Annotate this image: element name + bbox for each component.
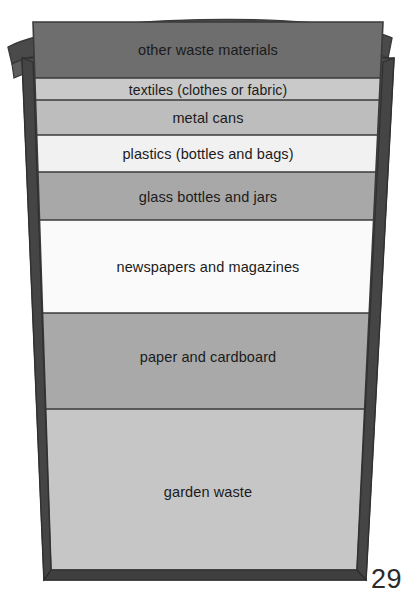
page-number: 29 (371, 564, 402, 595)
bin-base (44, 570, 366, 580)
page: other waste materials textiles (clothes … (0, 0, 416, 609)
band-metal-cans (0, 100, 416, 135)
band-textiles (0, 78, 416, 100)
band-other-waste-materials (0, 22, 416, 78)
band-glass-bottles-and-jars (0, 172, 416, 220)
band-newspapers-and-magazines (0, 220, 416, 313)
wheelie-bin-diagram: other waste materials textiles (clothes … (0, 0, 416, 609)
band-plastics (0, 135, 416, 172)
band-paper-and-cardboard (0, 313, 416, 409)
band-garden-waste (0, 409, 416, 570)
bin-band-group (0, 22, 416, 570)
bin-illustration (0, 0, 416, 609)
